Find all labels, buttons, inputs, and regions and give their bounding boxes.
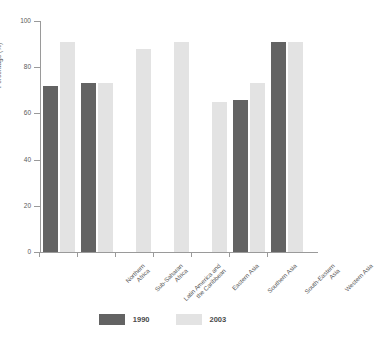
y-axis-tick-label: 20 xyxy=(24,202,31,209)
bar-group xyxy=(81,21,113,252)
bar-2003 xyxy=(60,42,75,252)
legend-swatch xyxy=(99,314,125,325)
bar-2003 xyxy=(174,42,189,252)
x-axis-tick xyxy=(39,252,40,257)
x-axis-tick xyxy=(77,252,78,257)
bar-group xyxy=(233,21,265,252)
bar-group xyxy=(119,21,151,252)
legend-swatch xyxy=(176,314,202,325)
bar-group xyxy=(195,21,227,252)
bar-2003 xyxy=(250,83,265,252)
y-axis-tick-label: 40 xyxy=(24,156,31,163)
bar-1990 xyxy=(271,42,286,252)
y-axis-tick-label: 0 xyxy=(27,248,31,255)
y-axis-tick-label: 80 xyxy=(24,63,31,70)
bar-2003 xyxy=(212,102,227,252)
y-axis-tick-label: 60 xyxy=(24,109,31,116)
bar-2003 xyxy=(98,83,113,252)
x-axis-tick xyxy=(229,252,230,257)
y-axis-tick-label: 100 xyxy=(20,17,31,24)
legend-label: 1990 xyxy=(133,315,150,324)
bar-1990 xyxy=(81,83,96,252)
x-axis-tick xyxy=(267,252,268,257)
y-axis-title: Percentage (%) xyxy=(0,8,3,88)
legend-entry: 1990 xyxy=(99,314,150,325)
chart-legend: 19902003 xyxy=(0,314,325,325)
bar-2003 xyxy=(136,49,151,252)
bar-group xyxy=(43,21,75,252)
bar-1990 xyxy=(43,86,58,252)
x-axis-tick xyxy=(115,252,116,257)
legend-label: 2003 xyxy=(210,315,227,324)
x-axis-tick xyxy=(153,252,154,257)
plot-area xyxy=(40,21,315,252)
x-axis-tick xyxy=(191,252,192,257)
bar-1990 xyxy=(233,100,248,252)
legend-entry: 2003 xyxy=(176,314,227,325)
bar-group xyxy=(157,21,189,252)
bar-2003 xyxy=(288,42,303,252)
x-axis-line xyxy=(40,252,318,253)
bar-group xyxy=(271,21,303,252)
